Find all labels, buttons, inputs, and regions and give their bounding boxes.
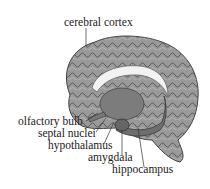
label-olfactory-bulb: olfactory bulb — [18, 116, 83, 128]
brain-diagram: cerebral cortex olfactory bulb septal nu… — [0, 0, 210, 189]
label-amygdala: amygdala — [88, 152, 133, 164]
label-hypothalamus: hypothalamus — [48, 140, 113, 152]
label-septal-nuclei: septal nuclei — [38, 128, 96, 140]
thalamus-shape — [100, 88, 144, 120]
amygdala-shape — [115, 119, 129, 131]
label-hippocampus: hippocampus — [112, 164, 173, 176]
label-cerebral-cortex: cerebral cortex — [64, 17, 133, 29]
